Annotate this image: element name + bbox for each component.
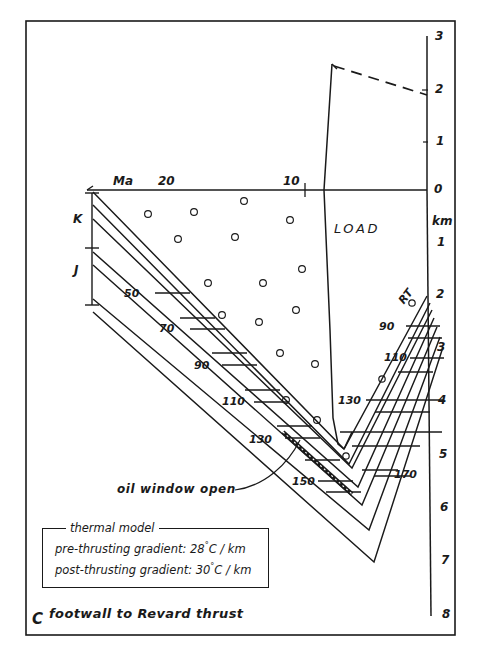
time-axis [87, 183, 427, 197]
depth-tick-3: 3 [437, 341, 445, 353]
isotherm-label-110: 110 [222, 396, 245, 407]
thermal-model-line1-text: pre-thrusting gradient: 28 [55, 542, 205, 556]
depth-tick-1: 1 [437, 236, 445, 248]
isotherm-label-70: 70 [159, 323, 174, 334]
strat-label-k: K [73, 213, 82, 225]
depth-tick-6: 6 [440, 501, 448, 513]
depth-tick-8: 8 [442, 608, 450, 620]
depth-tick-4: 4 [438, 394, 446, 406]
isotherm-label-50: 50 [124, 288, 139, 299]
ma-axis-label: Ma [113, 175, 133, 187]
oil-window-label: oil window open [117, 483, 236, 495]
thermal-model-title: thermal model [66, 521, 159, 535]
isotherm-label-150: 150 [292, 476, 315, 487]
depth-tick-2: 2 [436, 288, 444, 300]
time-tick-20: 20 [158, 175, 175, 187]
thermal-model-line2: post-thrusting gradient: 30°C / km [55, 562, 251, 577]
isotherm-label-170-uplift: 170 [394, 469, 417, 480]
depth-tick-0: 0 [434, 183, 442, 195]
isotherm-label-110-uplift: 110 [384, 352, 407, 363]
depth-tick-3-above: 3 [435, 30, 443, 42]
load-label: LOAD [334, 222, 380, 235]
depth-tick-7: 7 [441, 554, 449, 566]
isotherm-label-130: 130 [249, 434, 272, 445]
thermal-model-line1: pre-thrusting gradient: 28°C / km [55, 541, 246, 556]
thermal-model-line2-unit: C / km [214, 563, 251, 577]
isotherm-label-90: 90 [194, 360, 209, 371]
isotherm-label-90-uplift: 90 [379, 321, 394, 332]
figure-caption: footwall to Revard thrust [49, 607, 243, 620]
thermal-model-box: pre-thrusting gradient: 28°C / km post-t… [42, 528, 269, 588]
strat-label-j: J [74, 264, 78, 276]
burial-history-curves [93, 192, 443, 562]
thermal-model-line1-unit: C / km [209, 542, 246, 556]
load-dashed-top [334, 66, 427, 95]
figure-panel-c: Ma 20 10 3 2 1 0 km 1 2 3 4 5 6 7 8 K J … [0, 0, 479, 661]
isotherm-label-130-uplift: 130 [338, 395, 361, 406]
depth-tick-5: 5 [439, 448, 447, 460]
time-tick-10: 10 [283, 175, 300, 187]
km-axis-label: km [432, 215, 452, 227]
depth-tick-1-above: 1 [436, 135, 444, 147]
thermal-model-line2-text: post-thrusting gradient: 30 [55, 563, 210, 577]
panel-label: C [32, 612, 43, 627]
depth-tick-2-above: 2 [435, 83, 443, 95]
